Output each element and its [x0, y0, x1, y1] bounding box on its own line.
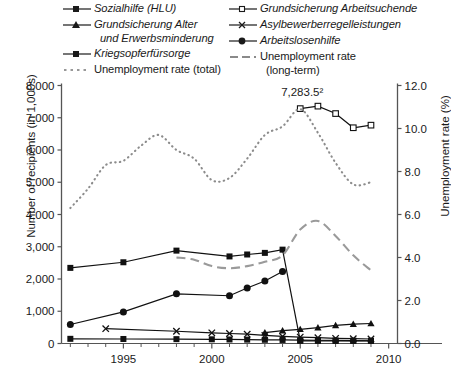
data-point-marker [173, 336, 179, 342]
data-point-marker [262, 250, 268, 256]
data-point-marker [262, 337, 268, 343]
data-point-marker [315, 103, 321, 109]
data-point-marker [244, 337, 250, 343]
y-axis-tick-label: 2,000 [26, 273, 55, 285]
y-axis-tick-label: 0 [48, 338, 54, 350]
x-axis-tick-label: 2005 [287, 353, 313, 365]
y2-axis-tick-label: 4.0 [405, 252, 421, 264]
data-point-marker [227, 336, 233, 342]
data-point-marker [120, 308, 127, 315]
data-point-marker [297, 337, 303, 343]
data-point-marker [120, 259, 126, 265]
data-label-annotation: 7,283.5² [281, 86, 323, 98]
series-line-unemployment-total [70, 109, 371, 208]
data-point-marker [368, 338, 374, 344]
series-line-unemployment-longterm [176, 221, 371, 271]
chart-figure: Sozialhilfe (HLU) Grundsicherung Alter u… [0, 0, 451, 383]
data-point-marker [209, 336, 215, 342]
data-point-marker [227, 253, 233, 259]
data-point-marker [280, 337, 286, 343]
y2-axis-tick-label: 10.0 [405, 123, 427, 135]
y2-axis-tick-label: 0.0 [405, 338, 421, 350]
data-point-marker [350, 338, 356, 344]
y2-axis-tick-label: 12.0 [405, 80, 427, 92]
series-line [300, 106, 371, 128]
data-point-marker [244, 251, 250, 257]
y-axis-tick-label: 1,000 [26, 305, 55, 317]
y-axis-title: Number of recipients (in 1,000s) [25, 41, 37, 271]
x-axis-tick-label: 1995 [111, 353, 137, 365]
y2-axis-tick-label: 6.0 [405, 209, 421, 221]
data-point-marker [350, 125, 356, 131]
series-line [70, 272, 282, 325]
series-line [106, 329, 371, 339]
chart-plot-area: 01,0002,0003,0004,0005,0006,0007,0008,00… [0, 0, 451, 383]
data-point-marker [261, 277, 268, 284]
y2-axis-tick-label: 8.0 [405, 166, 421, 178]
data-point-marker [67, 336, 73, 342]
data-point-marker [67, 265, 73, 271]
y2-axis-title: Unemployment rate (%) [439, 41, 451, 271]
data-point-marker [173, 248, 179, 254]
series-line [70, 339, 371, 341]
data-point-marker [368, 122, 374, 128]
data-point-marker [120, 336, 126, 342]
data-point-marker [67, 321, 74, 328]
data-point-marker [279, 268, 286, 275]
data-point-marker [333, 337, 339, 343]
data-point-marker [244, 285, 251, 292]
data-point-marker [173, 290, 180, 297]
data-point-marker [333, 111, 339, 117]
x-axis-tick-label: 2010 [376, 353, 402, 365]
x-axis-tick-label: 2000 [199, 353, 225, 365]
data-point-marker [315, 337, 321, 343]
y2-axis-tick-label: 2.0 [405, 295, 421, 307]
data-point-marker [226, 292, 233, 299]
